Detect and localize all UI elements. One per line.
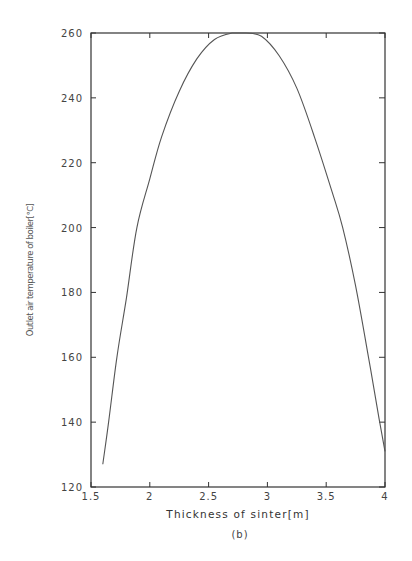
- figure-caption: (b): [231, 529, 248, 540]
- x-tick-label: 2.5: [199, 491, 218, 502]
- y-tick-label: 140: [61, 417, 83, 428]
- y-tick-label: 120: [61, 482, 83, 493]
- x-tick-label: 1.5: [82, 491, 101, 502]
- y-tick-label: 260: [61, 28, 83, 39]
- plot-border: [91, 33, 385, 487]
- y-tick-label: 160: [61, 352, 83, 363]
- x-tick-label: 4: [381, 491, 388, 502]
- line-chart: 1.522.533.54 120140160180200220240260 Th…: [0, 0, 412, 561]
- y-tick-label: 220: [61, 158, 83, 169]
- y-tick-label: 240: [61, 93, 83, 104]
- temperature-curve: [103, 33, 385, 464]
- x-axis-ticks: 1.522.533.54: [82, 33, 389, 502]
- x-tick-label: 2: [146, 491, 153, 502]
- y-axis-title: Outlet air temperature of boiler[℃]: [25, 204, 35, 337]
- y-tick-label: 200: [61, 223, 83, 234]
- plot-frame: [91, 33, 385, 487]
- x-tick-label: 3: [264, 491, 271, 502]
- y-axis-ticks: 120140160180200220240260: [61, 28, 385, 493]
- x-tick-label: 3.5: [317, 491, 336, 502]
- y-tick-label: 180: [61, 287, 83, 298]
- x-axis-title: Thickness of sinter[m]: [165, 508, 309, 520]
